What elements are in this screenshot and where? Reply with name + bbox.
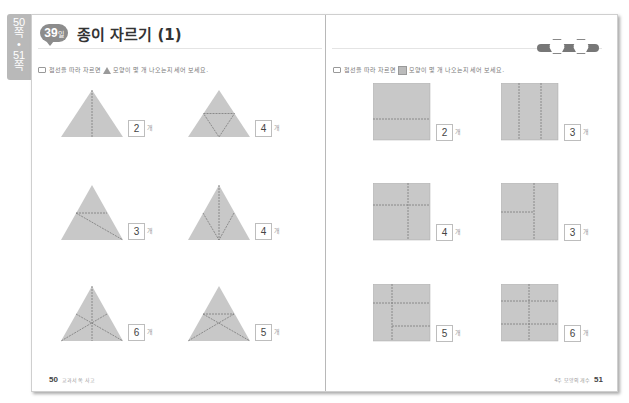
unit-label: 개 [147, 226, 153, 235]
answer-box[interactable]: 4 [436, 224, 453, 241]
triangle-figure [188, 286, 250, 342]
answer-box[interactable]: 2 [128, 120, 145, 137]
page-number: 51 [594, 375, 603, 384]
unit-label: 개 [455, 328, 461, 337]
workbook-spread: 39일 종이 자르기 (1) 점선을 따라 자르면모양이 몇 개 나오는지 세어… [31, 14, 618, 392]
right-instruction: 점선을 따라 자르면모양이 몇 개 나오는지 세어 보세요. [333, 65, 504, 75]
instruction-text: 점선을 따라 자르면 [344, 66, 396, 73]
unit-label: 개 [274, 226, 280, 235]
square-figure [501, 183, 559, 241]
bullet-icon [38, 67, 46, 73]
page-range-tab: 50 쪽 • 51 쪽 [7, 14, 31, 80]
answer-box[interactable]: 3 [564, 224, 581, 241]
triangle-figure [61, 185, 123, 241]
footer-label: 교과서 쏙 사고 [62, 377, 95, 383]
square-figure [373, 284, 431, 342]
instruction-text: 점선을 따라 자르면 [49, 66, 101, 73]
tab-line: 쪽 [7, 61, 31, 72]
page-number: 50 [49, 375, 58, 384]
answer-box[interactable]: 4 [255, 223, 272, 240]
instruction-text: 모양이 몇 개 나오는지 세어 보세요. [113, 66, 208, 73]
unit-label: 개 [583, 127, 589, 136]
triangle-icon [103, 67, 111, 74]
triangle-figure [188, 185, 250, 241]
bullet-icon [333, 67, 341, 73]
unit-label: 개 [583, 328, 589, 337]
answer-box[interactable]: 6 [128, 324, 145, 341]
unit-label: 개 [147, 327, 153, 336]
square-figure [373, 183, 431, 241]
unit-label: 개 [583, 227, 589, 236]
answer-box[interactable]: 3 [128, 223, 145, 240]
square-figure [501, 284, 559, 342]
right-footer: 4주 모양의 개수51 [551, 375, 603, 384]
answer-box[interactable]: 4 [255, 120, 272, 137]
progress-bar [537, 44, 599, 52]
square-figure [501, 83, 559, 141]
progress-hexagons [537, 39, 617, 53]
instruction-text: 모양이 몇 개 나오는지 세어 보세요. [409, 66, 504, 73]
footer-label: 4주 모양의 개수 [555, 377, 591, 383]
left-footer: 50교과서 쏙 사고 [49, 375, 99, 384]
answer-box[interactable]: 6 [564, 325, 581, 342]
left-instruction: 점선을 따라 자르면모양이 몇 개 나오는지 세어 보세요. [38, 65, 208, 74]
unit-label: 개 [274, 123, 280, 132]
day-number: 39 [44, 26, 57, 40]
square-figure [373, 83, 431, 141]
unit-label: 개 [274, 327, 280, 336]
day-suffix: 일 [58, 31, 64, 38]
divider [38, 48, 322, 49]
square-icon [398, 66, 407, 75]
unit-label: 개 [147, 123, 153, 132]
answer-box[interactable]: 3 [564, 124, 581, 141]
triangle-figure [188, 90, 250, 138]
unit-label: 개 [455, 227, 461, 236]
unit-label: 개 [455, 127, 461, 136]
triangle-figure [61, 286, 123, 342]
answer-box[interactable]: 2 [436, 124, 453, 141]
triangle-figure [61, 90, 123, 138]
day-badge: 39일 [40, 24, 68, 42]
answer-box[interactable]: 5 [255, 324, 272, 341]
answer-box[interactable]: 5 [436, 325, 453, 342]
book-spine [325, 15, 326, 391]
page-title: 종이 자르기 (1) [77, 23, 182, 44]
